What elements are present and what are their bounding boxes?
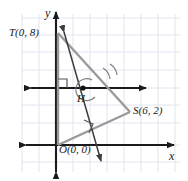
right-angle-mark-at-axis bbox=[58, 79, 67, 88]
y-axis-label: y bbox=[45, 7, 50, 19]
segment-ts bbox=[58, 33, 130, 112]
point-label-h: H bbox=[77, 93, 85, 104]
geometry-figure: y x T(0, 8) S(6, 2) O(0, 0) H bbox=[0, 0, 188, 181]
grid bbox=[22, 14, 180, 172]
segment-os bbox=[58, 112, 130, 145]
axes bbox=[26, 12, 174, 172]
point-label-t: T(0, 8) bbox=[9, 27, 39, 38]
point-marker-h bbox=[80, 85, 85, 90]
x-axis-label: x bbox=[169, 150, 174, 162]
point-label-o: O(0, 0) bbox=[59, 144, 91, 155]
point-label-s: S(6, 2) bbox=[133, 105, 162, 116]
